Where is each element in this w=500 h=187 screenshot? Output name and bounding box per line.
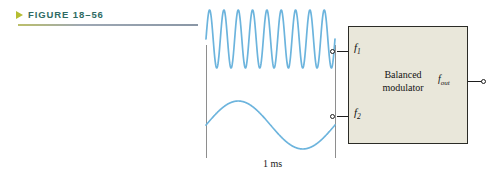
input-label-f1: f1 [354, 41, 361, 56]
figure-caption: FIGURE 18–56 [16, 8, 198, 21]
f2-subscript: 2 [357, 112, 361, 121]
input-lead-f1 [337, 51, 348, 52]
figure-18-56-page: FIGURE 18–56 [0, 0, 500, 187]
fout-subscript: out [441, 79, 450, 87]
output-label-fout: fout [438, 73, 450, 87]
block-title-line1: Balanced [384, 69, 421, 80]
output-lead-fout [468, 81, 482, 82]
balanced-modulator-block: Balanced modulator [348, 26, 468, 144]
figure-caption-text: FIGURE 18–56 [28, 9, 104, 20]
time-span-dimension: 1 ms [200, 158, 345, 176]
input-terminal-f2 [330, 114, 335, 119]
block-title-line2: modulator [382, 82, 423, 93]
caption-row: FIGURE 18–56 [16, 8, 198, 21]
output-terminal-fout [481, 79, 486, 84]
triangle-right-icon [16, 11, 23, 19]
input-label-f2: f2 [354, 106, 361, 121]
f1-subscript: 1 [357, 47, 361, 56]
caption-divider [18, 24, 198, 26]
input-lead-f2 [337, 116, 348, 117]
input-terminal-f1 [330, 49, 335, 54]
dimension-label: 1 ms [200, 158, 345, 170]
